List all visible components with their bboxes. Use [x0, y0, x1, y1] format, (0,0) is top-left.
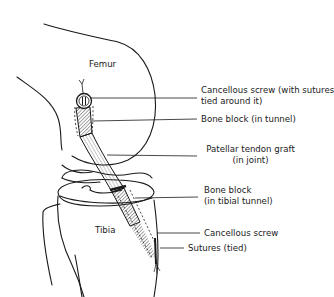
femoral-bone-block — [76, 107, 92, 137]
label-cancellous-screw-femoral: Cancellous screw (with sutures tied arou… — [201, 85, 334, 106]
tibial-screw — [154, 238, 157, 264]
label-cancellous-screw-tibial: Cancellous screw — [204, 228, 278, 239]
label-femur: Femur — [89, 59, 116, 70]
label-tibia: Tibia — [95, 225, 115, 236]
leader-graft — [107, 155, 197, 156]
label-bone-block-femoral: Bone block (in tunnel) — [201, 114, 296, 125]
label-sutures-tied: Sutures (tied) — [188, 243, 247, 254]
label-bone-block-tibial: Bone block (in tibial tunnel) — [204, 185, 273, 206]
femoral-sutures — [79, 79, 84, 93]
leader-tibial-block — [135, 197, 198, 198]
tibial-bone-block — [112, 188, 140, 226]
femur-left-edge — [17, 77, 62, 150]
label-patellar-tendon-graft: Patellar tendon graft (in joint) — [203, 144, 298, 165]
leader-femoral-block — [92, 119, 197, 121]
